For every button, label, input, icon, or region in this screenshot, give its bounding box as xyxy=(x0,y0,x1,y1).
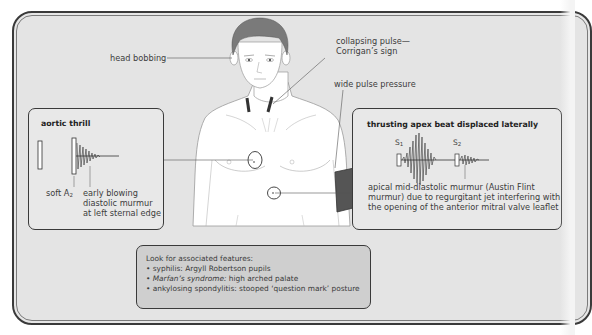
collapsing-pulse-label: collapsing pulse— xyxy=(336,36,410,46)
early-murmur-line2: diastolic murmur xyxy=(83,198,153,208)
feature-condition: Marfan’s syndrome: xyxy=(153,274,229,283)
feature-condition: syphilis: xyxy=(153,264,185,273)
austin-flint-line1: apical mid-diastolic murmur (Austin Flin… xyxy=(368,182,535,192)
feature-item-marfan: • Marfan’s syndrome: high arched palate xyxy=(146,274,360,284)
feature-sign: high arched palate xyxy=(229,274,298,283)
apex-waveform xyxy=(353,109,563,231)
corrigans-sign-label-text: Corrigan’s sign xyxy=(336,46,397,56)
apex-beat-box: thrusting apex beat displaced laterally … xyxy=(352,108,562,230)
soft-a2-text: soft A xyxy=(46,188,69,198)
feature-item-ankylosing-spondylitis: • ankylosing spondylitis: stooped ‘quest… xyxy=(146,284,360,294)
wide-pulse-pressure-label: wide pulse pressure xyxy=(334,79,416,89)
austin-flint-line2: murmur) due to regurgitant jet interferi… xyxy=(368,192,560,202)
associated-features-box: Look for associated features: • syphilis… xyxy=(136,245,371,309)
early-murmur-line1: early blowing xyxy=(83,188,138,198)
head-bobbing-label: head bobbing xyxy=(110,53,166,63)
feature-item-syphilis: • syphilis: Argyll Robertson pupils xyxy=(146,264,360,274)
bullet-icon: • xyxy=(146,284,150,293)
early-murmur-line3: at left sternal edge xyxy=(83,208,161,218)
bullet-icon: • xyxy=(146,274,150,283)
feature-condition: ankylosing spondylitis: xyxy=(153,284,239,293)
feature-sign: stooped ‘question mark’ posture xyxy=(239,284,360,293)
features-heading: Look for associated features: xyxy=(146,254,360,264)
soft-a2-label: soft A2 xyxy=(46,188,73,200)
austin-flint-line3: the opening of the anterior mitral valve… xyxy=(368,202,558,212)
feature-sign: Argyll Robertson pupils xyxy=(185,264,270,273)
soft-a2-subscript: 2 xyxy=(69,192,73,198)
aortic-thrill-box: aortic thrill soft A2 early blowing dias… xyxy=(28,108,164,230)
bullet-icon: • xyxy=(146,264,150,273)
page-edge-fade xyxy=(560,0,575,335)
